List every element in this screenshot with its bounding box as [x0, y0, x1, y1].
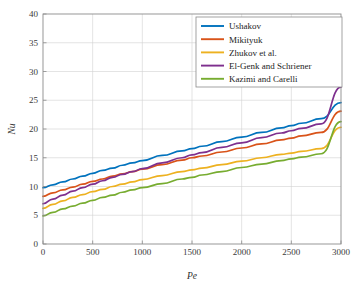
y-tick-label: 25: [29, 95, 39, 105]
legend-label-3[interactable]: Zhukov et al.: [229, 48, 277, 58]
x-tick-label: 1500: [183, 247, 202, 257]
legend-label-5[interactable]: Kazimi and Carelli: [229, 74, 298, 84]
legend-label-1[interactable]: Ushakov: [229, 21, 261, 31]
y-tick-label: 15: [29, 153, 39, 163]
y-tick-label: 20: [29, 124, 39, 134]
chart-legend[interactable]: UshakovMikityukZhukov et al.El-Genk and …: [196, 17, 342, 87]
y-axis-title: Nu: [7, 123, 17, 135]
legend-label-4[interactable]: El-Genk and Schriener: [229, 61, 311, 71]
x-tick-label: 500: [86, 247, 100, 257]
y-tick-label: 40: [29, 9, 39, 19]
x-tick-labels: 050010001500200025003000: [41, 247, 351, 257]
y-tick-label: 5: [34, 210, 39, 220]
x-tick-label: 1000: [133, 247, 152, 257]
x-axis-title: Pe: [186, 271, 197, 281]
legend-label-2[interactable]: Mikityuk: [229, 35, 263, 45]
x-tick-label: 0: [41, 247, 46, 257]
chart-figure: 050010001500200025003000 051015202530354…: [0, 0, 357, 288]
x-tick-label: 2000: [233, 247, 252, 257]
y-tick-label: 10: [29, 182, 39, 192]
x-tick-label: 2500: [282, 247, 301, 257]
x-tick-label: 3000: [332, 247, 351, 257]
y-tick-labels: 0510152025303540: [29, 9, 39, 249]
line-chart: 050010001500200025003000 051015202530354…: [0, 0, 357, 288]
y-tick-label: 30: [29, 67, 39, 77]
y-tick-label: 35: [29, 38, 39, 48]
y-tick-label: 0: [34, 239, 39, 249]
